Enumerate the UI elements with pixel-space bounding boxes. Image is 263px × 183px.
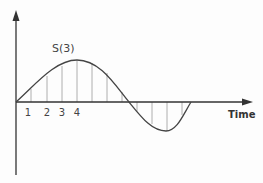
y-axis-arrow-icon <box>13 10 20 21</box>
tick-label-1: 1 <box>25 107 31 118</box>
tick-label-4: 4 <box>74 107 80 118</box>
curve-label: S(3) <box>52 42 75 55</box>
sine-diagram: S(3) 1 2 3 4 Time <box>0 0 263 183</box>
tick-label-2: 2 <box>44 107 50 118</box>
x-axis-label: Time <box>228 109 256 120</box>
diagram-root: S(3) 1 2 3 4 Time <box>0 0 263 183</box>
x-axis-arrow-icon <box>242 99 253 106</box>
tick-label-3: 3 <box>59 107 65 118</box>
strips <box>31 60 182 131</box>
sine-curve <box>16 60 191 131</box>
